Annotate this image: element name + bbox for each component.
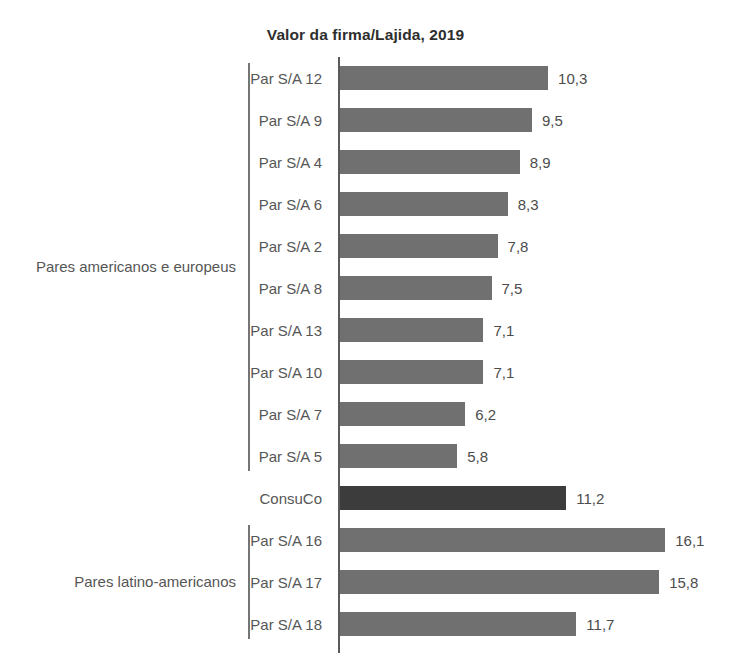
bar (340, 108, 532, 132)
bar-value-label: 7,1 (493, 364, 514, 381)
bar-category-label: Par S/A 2 (150, 238, 330, 255)
bar-row: Par S/A 1616,1 (0, 519, 731, 561)
bar-value-label: 5,8 (467, 448, 488, 465)
bar-value-label: 7,5 (502, 280, 523, 297)
bar-row: Par S/A 1811,7 (0, 603, 731, 645)
bar-value-label: 9,5 (542, 112, 563, 129)
bar-value-label: 15,8 (669, 574, 698, 591)
group-bracket (248, 525, 250, 639)
bar (340, 528, 665, 552)
bar-row: Par S/A 55,8 (0, 435, 731, 477)
bar (340, 444, 457, 468)
bar-value-label: 7,8 (508, 238, 529, 255)
bar-category-label: Par S/A 6 (150, 196, 330, 213)
bar-category-label: Par S/A 12 (150, 70, 330, 87)
bar-value-label: 11,7 (586, 616, 614, 633)
bar (340, 318, 483, 342)
chart-title: Valor da firma/Lajida, 2019 (0, 26, 731, 44)
bar-row: Par S/A 99,5 (0, 99, 731, 141)
bar-chart: Valor da firma/Lajida, 2019 Par S/A 1210… (0, 0, 731, 670)
bar-value-label: 10,3 (558, 70, 587, 87)
bar-value-label: 6,2 (475, 406, 496, 423)
group-label: Pares americanos e europeus (36, 258, 236, 275)
bar-category-label: Par S/A 16 (150, 532, 330, 549)
bar-category-label: Par S/A 9 (150, 112, 330, 129)
bar-category-label: Par S/A 18 (150, 616, 330, 633)
bar-row: ConsuCo11,2 (0, 477, 731, 519)
bar-category-label: ConsuCo (150, 490, 330, 507)
bar-value-label: 8,9 (530, 154, 551, 171)
bar-value-label: 16,1 (675, 532, 704, 549)
group-label: Pares latino-americanos (74, 573, 236, 590)
bar-category-label: Par S/A 4 (150, 154, 330, 171)
bar-category-label: Par S/A 8 (150, 280, 330, 297)
bar-row: Par S/A 107,1 (0, 351, 731, 393)
bar (340, 234, 498, 258)
bar-category-label: Par S/A 13 (150, 322, 330, 339)
bar (340, 66, 548, 90)
bar-category-label: Par S/A 7 (150, 406, 330, 423)
bar (340, 192, 508, 216)
bar (340, 276, 492, 300)
bar-value-label: 8,3 (518, 196, 539, 213)
bar (340, 402, 465, 426)
group-bracket (248, 63, 250, 471)
bar-highlighted (340, 486, 566, 510)
bar-value-label: 11,2 (576, 490, 604, 507)
bar-row: Par S/A 137,1 (0, 309, 731, 351)
bar (340, 150, 520, 174)
bar-row: Par S/A 68,3 (0, 183, 731, 225)
bar-category-label: Par S/A 5 (150, 448, 330, 465)
bar-category-label: Par S/A 10 (150, 364, 330, 381)
bar-row: Par S/A 76,2 (0, 393, 731, 435)
bar-row: Par S/A 48,9 (0, 141, 731, 183)
bar (340, 360, 483, 384)
bar (340, 612, 576, 636)
bar-row: Par S/A 1210,3 (0, 57, 731, 99)
plot-area: Par S/A 1210,3Par S/A 99,5Par S/A 48,9Pa… (0, 57, 731, 657)
bar (340, 570, 659, 594)
bar-value-label: 7,1 (493, 322, 514, 339)
